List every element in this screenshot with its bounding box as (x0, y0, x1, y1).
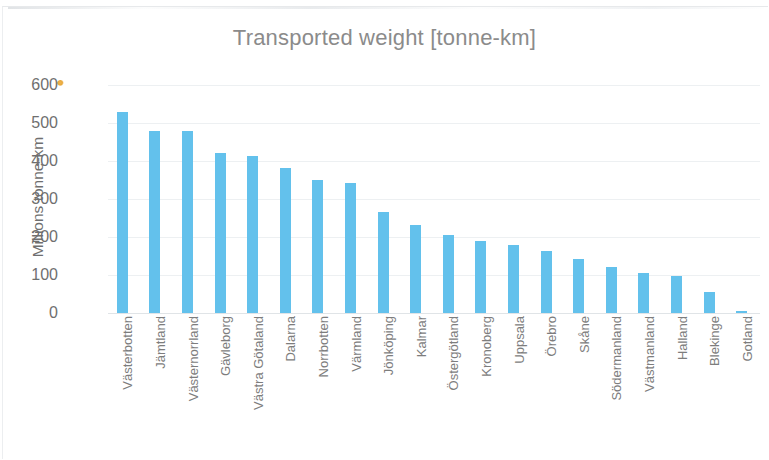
y-axis-tick-label: 600 (10, 77, 58, 93)
bar-chart: Transported weight [tonne-km] Millions t… (0, 0, 769, 460)
bar (508, 245, 519, 313)
x-axis-tick-label: Östergötland (448, 316, 459, 390)
bar (247, 156, 258, 313)
gridline (108, 85, 760, 86)
y-axis-tick-label: 0 (10, 305, 58, 321)
bar (345, 183, 356, 313)
bar (541, 251, 552, 313)
gridline (108, 237, 760, 238)
bar (149, 131, 160, 313)
bar (312, 180, 323, 313)
bar (475, 241, 486, 313)
bar (410, 225, 421, 313)
x-axis-tick-label: Skåne (579, 316, 590, 353)
bar (606, 267, 617, 313)
x-axis-tick-label: Gävleborg (220, 316, 231, 376)
gridline (108, 161, 760, 162)
bar (573, 259, 584, 313)
x-axis-tick-label: Södermanland (611, 316, 622, 401)
x-axis-tick-label: Jämtland (155, 316, 166, 369)
bar (638, 273, 649, 313)
x-axis-tick-label: Norrbotten (318, 316, 329, 377)
x-axis-tick-label: Halland (677, 316, 688, 360)
gridline (108, 123, 760, 124)
chart-title: Transported weight [tonne-km] (0, 25, 769, 51)
x-axis-tick-label: Örebro (546, 316, 557, 356)
x-axis-tick-label: Dalarna (285, 316, 296, 362)
plot-area (108, 85, 760, 313)
bar (443, 235, 454, 313)
x-axis-tick-label: Västra Götaland (253, 316, 264, 410)
gridline (108, 275, 760, 276)
x-axis-tick-label: Västernorrland (188, 316, 199, 401)
gridline (108, 199, 760, 200)
x-axis-line (108, 313, 760, 314)
bar (280, 168, 291, 313)
x-axis-tick-label: Västmanland (644, 316, 655, 392)
y-axis-tick-label: 100 (10, 267, 58, 283)
x-axis-tick-label: Kronoberg (481, 316, 492, 377)
x-axis-tick-labels: VästerbottenJämtlandVästernorrlandGävleb… (108, 316, 760, 456)
bar (215, 153, 226, 313)
bar (378, 212, 389, 313)
x-axis-tick-label: Jönköping (383, 316, 394, 375)
y-axis-tick-label: 400 (10, 153, 58, 169)
x-axis-tick-label: Gotland (742, 316, 753, 362)
y-axis-tick-label: 300 (10, 191, 58, 207)
bar (704, 292, 715, 313)
x-axis-tick-label: Västerbotten (122, 316, 133, 390)
scan-artifact-speck (57, 80, 64, 86)
bar (671, 276, 682, 313)
x-axis-tick-label: Blekinge (709, 316, 720, 366)
y-axis-tick-label: 200 (10, 229, 58, 245)
x-axis-tick-label: Värmland (351, 316, 362, 372)
bar (182, 131, 193, 313)
y-axis-tick-label: 500 (10, 115, 58, 131)
x-axis-tick-label: Kalmar (416, 316, 427, 357)
x-axis-tick-label: Uppsala (514, 316, 525, 364)
bar (117, 112, 128, 313)
